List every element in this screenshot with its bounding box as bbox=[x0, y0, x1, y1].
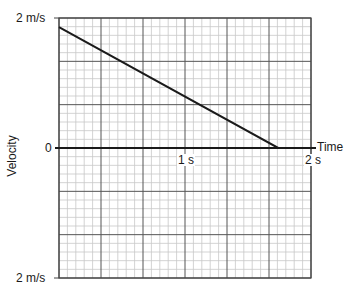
y-axis-title: Velocity bbox=[5, 135, 19, 176]
x-tick-label-1s: 1 s bbox=[177, 154, 195, 166]
x-axis-title: Time bbox=[317, 141, 343, 153]
y-tick-label-top: 2 m/s bbox=[16, 12, 45, 24]
x-tick-label-2s: 2 s bbox=[304, 154, 322, 166]
velocity-time-chart bbox=[0, 0, 356, 298]
y-tick-label-bottom: 2 m/s bbox=[16, 272, 45, 284]
y-tick-label-zero: 0 bbox=[45, 142, 52, 154]
